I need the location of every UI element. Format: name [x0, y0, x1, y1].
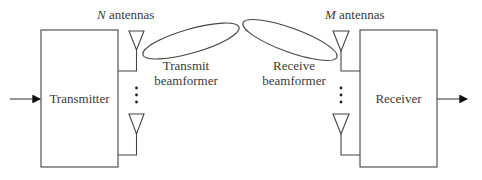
transmit-beamformer-label: Transmit beamformer	[150, 58, 222, 88]
rx-antenna-top-icon	[333, 31, 349, 51]
tx-antennas-label: N antennas	[97, 7, 154, 23]
receiver-label: Receiver	[360, 91, 437, 106]
tx-antenna-top-icon	[129, 31, 144, 50]
rx-antennas-label: M antennas	[325, 7, 385, 23]
beamforming-diagram	[0, 0, 482, 180]
transmitter-label: Transmitter	[41, 91, 118, 106]
rx-antenna-bottom-icon	[333, 114, 349, 134]
tx-antenna-bottom-icon	[129, 114, 144, 134]
receive-beamformer-label: Receive beamformer	[258, 58, 330, 88]
